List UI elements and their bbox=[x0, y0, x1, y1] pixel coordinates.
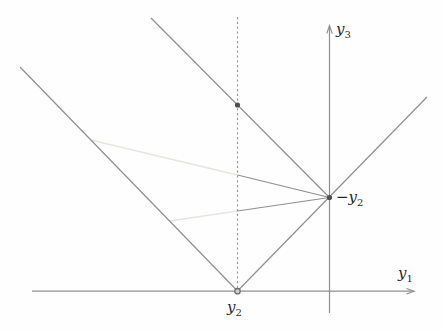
geometry-diagram: y3 y1 −y2 y2 bbox=[0, 0, 444, 331]
cone-right-edge bbox=[238, 97, 428, 291]
reflected-ray-lower bbox=[170, 211, 238, 221]
diagonal-dashed-intersection-dot bbox=[235, 102, 240, 107]
reflected-ray-upper bbox=[91, 140, 238, 175]
neg-y2-dot bbox=[327, 195, 332, 200]
y3-axis-label: y3 bbox=[336, 22, 351, 40]
y3-label-sub: 3 bbox=[344, 29, 350, 40]
neg-y2-label-minus: − bbox=[336, 188, 349, 206]
upper-diagonal-line bbox=[151, 18, 330, 198]
diagram-canvas bbox=[0, 0, 444, 331]
cone-left-edge bbox=[20, 67, 238, 291]
ray-from-negy2-upper bbox=[238, 175, 330, 198]
y2-open-dot bbox=[235, 289, 240, 294]
y2-point-label: y2 bbox=[227, 300, 242, 318]
neg-y2-point-label: −y2 bbox=[336, 190, 363, 208]
ray-from-negy2-lower bbox=[238, 198, 330, 212]
y1-label-sub: 1 bbox=[406, 273, 412, 284]
neg-y2-label-base: y bbox=[349, 188, 357, 206]
y1-axis-label: y1 bbox=[398, 266, 413, 284]
neg-y2-label-sub: 2 bbox=[357, 197, 363, 208]
y2-label-sub: 2 bbox=[235, 307, 241, 318]
